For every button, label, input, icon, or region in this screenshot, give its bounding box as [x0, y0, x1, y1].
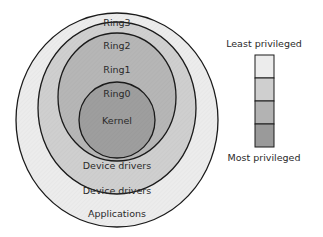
- legend-top-label: Least privileged: [226, 38, 302, 49]
- legend-swatch-2: [255, 78, 274, 101]
- ring3-label: Ring3: [103, 17, 130, 28]
- legend-swatch-least: [255, 55, 274, 78]
- ring2-content-label: Device drivers: [83, 185, 151, 196]
- privilege-legend: Least privileged Most privileged: [226, 38, 302, 163]
- kernel-label: Kernel: [102, 115, 132, 126]
- ring1-label: Ring1: [103, 64, 130, 75]
- legend-swatch-most: [255, 124, 274, 147]
- ring3-content-label: Applications: [88, 208, 146, 219]
- legend-bottom-label: Most privileged: [228, 152, 301, 163]
- ring2-label: Ring2: [103, 40, 130, 51]
- protection-rings-diagram: Ring3 Ring2 Ring1 Ring0 Kernel Device dr…: [0, 0, 323, 237]
- ring1-content-label: Device drivers: [83, 160, 151, 171]
- ring0-label: Ring0: [103, 88, 130, 99]
- legend-swatch-3: [255, 101, 274, 124]
